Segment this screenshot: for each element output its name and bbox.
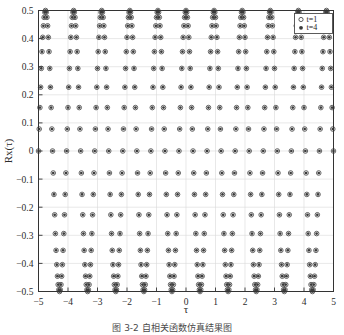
data-point bbox=[143, 288, 146, 291]
data-point bbox=[46, 24, 49, 27]
data-point bbox=[164, 172, 167, 175]
data-point bbox=[59, 288, 62, 291]
data-point bbox=[68, 67, 71, 70]
data-point bbox=[98, 36, 101, 39]
data-point bbox=[262, 150, 265, 153]
data-point bbox=[107, 150, 110, 153]
data-point bbox=[65, 150, 68, 153]
data-point bbox=[53, 213, 56, 216]
data-point bbox=[75, 36, 78, 39]
data-point bbox=[125, 50, 128, 53]
data-point bbox=[168, 263, 171, 266]
data-point bbox=[102, 16, 105, 19]
data-point bbox=[289, 172, 292, 175]
data-point bbox=[270, 16, 273, 19]
data-point bbox=[251, 249, 254, 252]
data-point bbox=[173, 275, 176, 278]
data-point bbox=[215, 24, 218, 27]
data-point bbox=[153, 50, 156, 53]
correlation-scatter-chart: −5−4−3−2−1012345 −0.5−0.4−0.3−0.2−0.100.… bbox=[0, 0, 344, 335]
data-point bbox=[121, 172, 124, 175]
data-point bbox=[260, 213, 263, 216]
data-point bbox=[180, 86, 183, 89]
data-point bbox=[232, 213, 235, 216]
data-point bbox=[76, 50, 79, 53]
data-point bbox=[190, 106, 193, 109]
data-point bbox=[97, 50, 100, 53]
data-point bbox=[126, 24, 129, 27]
data-point bbox=[189, 67, 192, 70]
data-point bbox=[230, 263, 233, 266]
data-point bbox=[235, 106, 238, 109]
data-point bbox=[220, 172, 223, 175]
data-point bbox=[110, 213, 113, 216]
data-point bbox=[261, 193, 264, 196]
data-point bbox=[180, 67, 183, 70]
data-point bbox=[126, 36, 129, 39]
data-point bbox=[133, 67, 136, 70]
data-point bbox=[171, 288, 174, 291]
legend-label-t4: t=4 bbox=[307, 23, 318, 32]
data-point bbox=[99, 16, 102, 19]
data-point bbox=[147, 213, 150, 216]
data-point bbox=[308, 249, 311, 252]
data-point bbox=[307, 232, 310, 235]
data-point bbox=[136, 172, 139, 175]
data-point bbox=[263, 106, 266, 109]
y-tick-label: 0.1 bbox=[22, 118, 34, 128]
data-point bbox=[322, 36, 325, 39]
data-point bbox=[287, 232, 290, 235]
data-point bbox=[95, 106, 98, 109]
data-point bbox=[148, 193, 151, 196]
data-point bbox=[228, 288, 231, 291]
data-point bbox=[138, 232, 141, 235]
data-point bbox=[329, 67, 332, 70]
data-point bbox=[178, 128, 181, 131]
data-point bbox=[62, 232, 65, 235]
data-point bbox=[162, 106, 165, 109]
chart-legend[interactable]: t=1 t=4 bbox=[295, 14, 333, 34]
data-point bbox=[71, 16, 74, 19]
data-point bbox=[249, 193, 252, 196]
data-point bbox=[319, 128, 322, 131]
data-point bbox=[220, 150, 223, 153]
data-point bbox=[132, 50, 135, 53]
data-point bbox=[197, 283, 200, 286]
data-point bbox=[321, 67, 324, 70]
data-point bbox=[174, 249, 177, 252]
data-point bbox=[256, 288, 259, 291]
data-point bbox=[133, 86, 136, 89]
x-tick-label: 1 bbox=[213, 297, 218, 307]
data-point bbox=[205, 172, 208, 175]
data-point bbox=[151, 106, 154, 109]
data-point bbox=[69, 36, 72, 39]
data-point bbox=[60, 283, 63, 286]
data-point bbox=[236, 86, 239, 89]
data-point bbox=[88, 275, 91, 278]
data-point bbox=[194, 232, 197, 235]
data-point bbox=[228, 283, 231, 286]
data-point bbox=[284, 283, 287, 286]
data-point bbox=[320, 86, 323, 89]
data-point bbox=[242, 16, 245, 19]
y-tick-label: −0.5 bbox=[16, 287, 33, 297]
data-point bbox=[140, 275, 143, 278]
data-point bbox=[303, 128, 306, 131]
data-point bbox=[193, 193, 196, 196]
data-point bbox=[61, 263, 64, 266]
data-point bbox=[146, 249, 149, 252]
data-point bbox=[232, 193, 235, 196]
data-point bbox=[280, 263, 283, 266]
data-point bbox=[81, 213, 84, 216]
data-point bbox=[197, 275, 200, 278]
data-point bbox=[47, 36, 50, 39]
data-point bbox=[110, 232, 113, 235]
data-point bbox=[73, 11, 76, 14]
data-point bbox=[239, 24, 242, 27]
data-point bbox=[252, 263, 255, 266]
x-tick-label: −1 bbox=[151, 297, 161, 307]
data-point bbox=[56, 275, 59, 278]
data-point bbox=[233, 172, 236, 175]
data-point bbox=[183, 16, 186, 19]
data-point bbox=[112, 275, 115, 278]
